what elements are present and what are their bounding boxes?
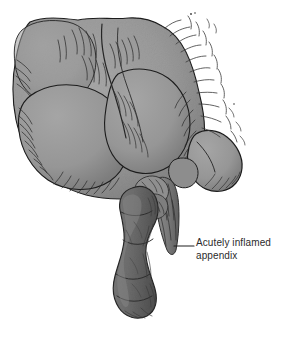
appendix-callout-label: Acutely inflamed appendix: [196, 236, 300, 262]
appendix: [113, 186, 158, 318]
illustration-canvas: [0, 0, 300, 337]
anatomy-figure: Acutely inflamed appendix: [0, 0, 300, 337]
